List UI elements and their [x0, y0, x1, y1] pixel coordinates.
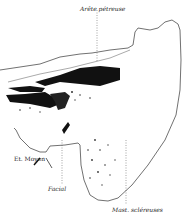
temporal-bone-drawing	[0, 0, 187, 219]
label-facial: Facial	[48, 186, 66, 192]
label-arete-petreuse: Arête pétreuse	[80, 6, 125, 12]
label-et-moyen: Et. Moyen	[14, 156, 45, 162]
label-mast-scleruses: Mast. scléreuses	[112, 207, 163, 213]
